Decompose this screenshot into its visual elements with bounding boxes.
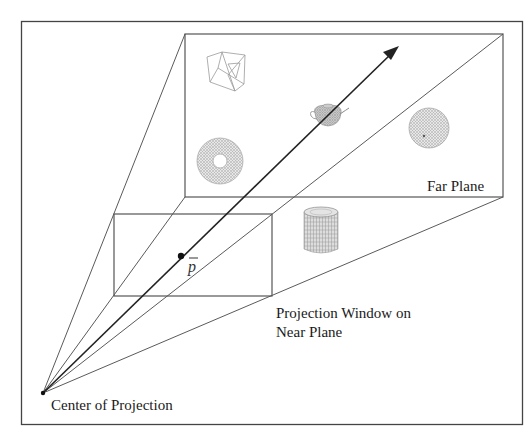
wireframe-cube-icon <box>207 52 245 91</box>
sphere-icon <box>409 108 449 148</box>
edge-top-right <box>43 34 503 393</box>
projection-ray <box>43 46 399 393</box>
point-p <box>178 253 184 259</box>
center-of-projection-point <box>41 391 45 395</box>
near-projection-window <box>114 214 272 296</box>
edge-bottom-right <box>43 197 503 393</box>
torus-icon <box>197 138 243 184</box>
cylinder-icon <box>304 207 338 253</box>
frustum-edges <box>43 34 503 393</box>
far-plane-label: Far Plane <box>427 178 484 194</box>
near-window-label-line2: Near Plane <box>276 324 343 340</box>
scene-objects <box>197 52 449 253</box>
frustum-diagram: p Far Plane Projection Window on Near Pl… <box>0 0 530 444</box>
teapot-icon <box>311 104 350 126</box>
arrow-head-icon <box>383 46 399 60</box>
near-window-label-line1: Projection Window on <box>276 305 411 321</box>
point-p-label: p <box>187 258 196 276</box>
ray-line <box>43 52 393 393</box>
center-of-projection-label: Center of Projection <box>51 397 173 413</box>
